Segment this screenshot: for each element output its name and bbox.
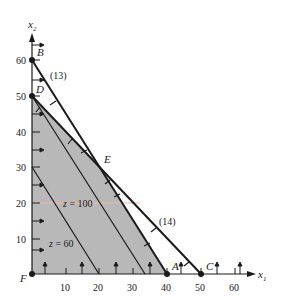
label-A: A xyxy=(171,260,179,272)
y-tick-20: 20 xyxy=(16,198,26,209)
y-tick-10: 10 xyxy=(16,234,26,245)
point-D xyxy=(29,93,35,99)
iso-label-z100: z = 100 xyxy=(62,198,93,209)
label-B: B xyxy=(37,46,44,58)
x-tick-30: 30 xyxy=(127,282,137,293)
x2-axis-arrow-icon xyxy=(29,33,35,42)
y-tick-30: 30 xyxy=(16,162,26,173)
iso-label-z60: z = 60 xyxy=(48,238,74,249)
x-tick-50: 50 xyxy=(195,282,205,293)
x-tick-60: 60 xyxy=(229,282,239,293)
lp-diagram: 10 20 30 40 50 60 10 20 30 40 50 60 x1 x… xyxy=(0,0,286,304)
point-F xyxy=(29,271,35,277)
label-E: E xyxy=(103,153,111,165)
x1-axis-arrow-icon xyxy=(247,271,256,277)
x-tick-10: 10 xyxy=(60,282,70,293)
y-tick-40: 40 xyxy=(16,127,26,138)
x-tick-40: 40 xyxy=(161,282,171,293)
label-F: F xyxy=(19,272,27,284)
x1-axis-label: x1 xyxy=(257,268,266,283)
point-A xyxy=(164,271,170,277)
y-tick-50: 50 xyxy=(16,91,26,102)
x2-axis-label: x2 xyxy=(27,18,37,33)
x-tick-20: 20 xyxy=(93,282,103,293)
y-tick-60: 60 xyxy=(16,55,26,66)
label-C: C xyxy=(206,260,214,272)
constraint-13-label: (13) xyxy=(50,70,67,82)
point-C xyxy=(198,271,204,277)
point-B xyxy=(29,57,35,63)
label-D: D xyxy=(35,83,44,95)
constraint-14-label: (14) xyxy=(159,216,176,228)
